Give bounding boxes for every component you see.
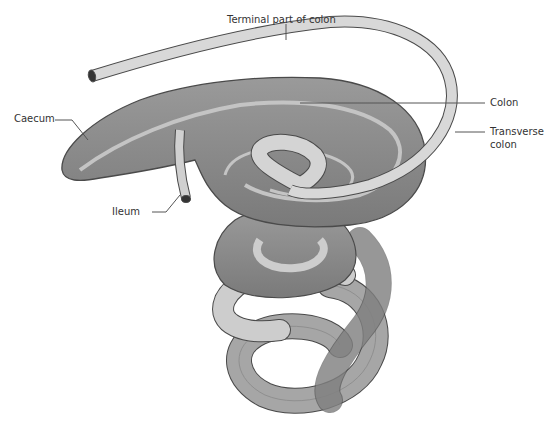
spiral-colon-diagram: Terminal part of colon Colon Transverse … — [0, 0, 553, 430]
label-transverse-colon-line1: Transverse — [490, 126, 544, 138]
label-transverse-colon-line2: colon — [490, 139, 517, 151]
diagram-artwork — [0, 0, 553, 430]
main-colon-lobe — [62, 77, 426, 226]
label-ileum: Ileum — [112, 206, 140, 218]
label-terminal-part-of-colon: Terminal part of colon — [227, 14, 336, 26]
label-caecum: Caecum — [14, 113, 55, 125]
label-colon: Colon — [490, 97, 518, 109]
leader-ileum — [152, 195, 180, 212]
